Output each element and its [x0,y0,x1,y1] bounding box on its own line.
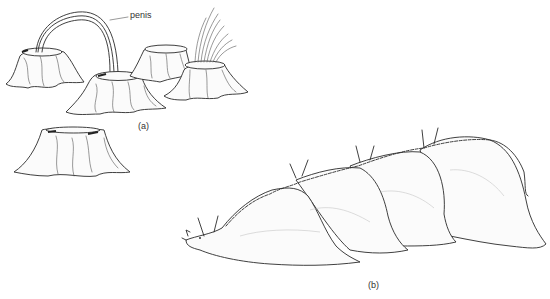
illustration [0,0,550,299]
panel-b-sea-hares [182,128,546,265]
panel-b-label: (b) [368,280,379,290]
figure-canvas: penis (a) (b) [0,0,550,299]
panel-a-label: (a) [138,121,149,131]
annotation-penis: penis [130,10,152,20]
panel-a-barnacles [6,8,248,176]
